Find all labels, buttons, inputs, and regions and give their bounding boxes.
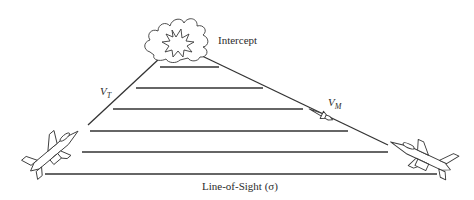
target-velocity-label: VT bbox=[100, 85, 112, 100]
los-lines bbox=[45, 67, 437, 174]
explosion-icon bbox=[145, 19, 208, 63]
missile-velocity-label: VM bbox=[328, 96, 343, 111]
target-jet-icon bbox=[20, 119, 87, 182]
pursuit-geometry-diagram: Intercept VT VM Line-of-Sight (σ) bbox=[0, 0, 474, 200]
intercept-label: Intercept bbox=[218, 34, 257, 46]
launcher-jet-icon bbox=[385, 127, 459, 183]
target-path-line bbox=[88, 58, 160, 125]
line-of-sight-label: Line-of-Sight (σ) bbox=[202, 180, 278, 193]
